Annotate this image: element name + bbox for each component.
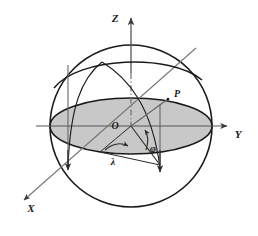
origin-label: O <box>111 120 118 131</box>
y-axis-label: Y <box>235 128 243 140</box>
lambda-angle-label: λ <box>110 156 116 167</box>
x-axis-label: X <box>26 202 35 214</box>
z-axis-label: Z <box>111 12 119 24</box>
spherical-coordinates-figure: Z Y X O P φ λ <box>0 0 258 236</box>
point-p-marker <box>167 98 170 101</box>
phi-angle-label: φ <box>150 143 156 154</box>
figure-canvas: Z Y X O P φ λ <box>0 0 258 236</box>
point-p-label: P <box>174 88 181 99</box>
